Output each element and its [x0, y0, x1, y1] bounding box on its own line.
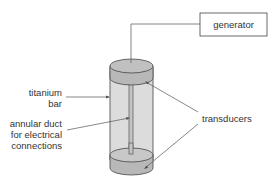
generator-wire	[131, 24, 200, 63]
titanium-bar-label-line2: bar	[48, 98, 62, 109]
generator-label: generator	[213, 19, 254, 30]
duct-label-line2: for electrical	[11, 129, 62, 140]
transducer-diagram: generator titanium bar annular duct for …	[0, 0, 276, 189]
transducers-label: transducers	[202, 113, 252, 124]
top-transducer-top	[110, 59, 153, 73]
duct-label-line3: connections	[11, 140, 62, 151]
duct-bottom-end	[129, 143, 133, 154]
duct-label-line1: annular duct	[10, 118, 63, 129]
transducer-pointer-top	[146, 82, 198, 112]
titanium-bar-label-line1: titanium	[29, 87, 62, 98]
titanium-bar-arrowhead	[106, 96, 110, 99]
